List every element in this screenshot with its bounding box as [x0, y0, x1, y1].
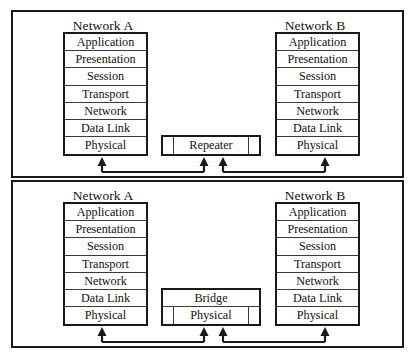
network-b-title-bottom: Network B [270, 188, 360, 203]
layer-application: Application [277, 34, 358, 51]
layer-session: Session [65, 68, 146, 85]
layer-session: Session [65, 238, 146, 255]
layer-data-link: Data Link [277, 290, 358, 307]
bridge-port-right [248, 307, 259, 324]
layer-network: Network [65, 273, 146, 290]
bridge-physical-label: Physical [174, 307, 248, 324]
layer-session: Session [277, 68, 358, 85]
layer-presentation: Presentation [65, 51, 146, 68]
repeater-port-right [248, 137, 259, 154]
network-b-stack-top: Application Presentation Session Transpo… [275, 32, 360, 156]
layer-transport: Transport [65, 86, 146, 103]
bridge-port-left [163, 307, 174, 324]
layer-application: Application [65, 34, 146, 51]
bridge-device: Bridge Physical [161, 288, 261, 326]
network-a-title-top: Network A [58, 18, 148, 33]
connector-repeater-to-b [218, 156, 330, 176]
repeater-device: Repeater [161, 135, 261, 156]
layer-transport: Transport [65, 256, 146, 273]
connector-a-to-repeater [97, 156, 209, 176]
diagram-canvas: Network A Network B Application Presenta… [0, 0, 416, 359]
layer-network: Network [277, 273, 358, 290]
bridge-label: Bridge [163, 290, 259, 306]
network-a-stack-bottom: Application Presentation Session Transpo… [63, 202, 148, 326]
layer-network: Network [65, 103, 146, 120]
repeater-row: Repeater [163, 137, 259, 154]
network-b-title-top: Network B [270, 18, 360, 33]
layer-presentation: Presentation [277, 51, 358, 68]
layer-presentation: Presentation [65, 221, 146, 238]
layer-application: Application [65, 204, 146, 221]
layer-transport: Transport [277, 86, 358, 103]
connector-a-to-bridge [97, 326, 209, 346]
network-a-stack-top: Application Presentation Session Transpo… [63, 32, 148, 156]
layer-data-link: Data Link [65, 120, 146, 137]
layer-physical: Physical [65, 137, 146, 154]
network-a-title-bottom: Network A [58, 188, 148, 203]
repeater-label: Repeater [174, 137, 248, 154]
layer-data-link: Data Link [65, 290, 146, 307]
repeater-port-left [163, 137, 174, 154]
bridge-title-row: Bridge [163, 290, 259, 307]
layer-presentation: Presentation [277, 221, 358, 238]
bridge-physical-row: Physical [163, 307, 259, 324]
layer-transport: Transport [277, 256, 358, 273]
connector-bridge-to-b [218, 326, 330, 346]
layer-session: Session [277, 238, 358, 255]
layer-network: Network [277, 103, 358, 120]
layer-data-link: Data Link [277, 120, 358, 137]
layer-application: Application [277, 204, 358, 221]
layer-physical: Physical [65, 307, 146, 324]
network-b-stack-bottom: Application Presentation Session Transpo… [275, 202, 360, 326]
layer-physical: Physical [277, 137, 358, 154]
repeater-panel: Network A Network B Application Presenta… [11, 10, 404, 178]
layer-physical: Physical [277, 307, 358, 324]
bridge-panel: Network A Network B Application Presenta… [11, 180, 404, 348]
